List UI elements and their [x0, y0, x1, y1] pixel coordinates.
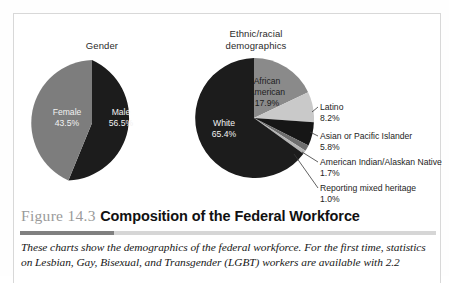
ethnic-callout-mixed-heritage-value: 1.0% — [320, 194, 416, 205]
figure-heading: Figure 14.3 Composition of the Federal W… — [21, 207, 360, 225]
ethnic-callout-mixed-heritage: Reporting mixed heritage 1.0% — [320, 183, 416, 204]
ethnic-callout-american-indian-name: American Indian/Alaskan Native — [320, 157, 442, 168]
figure-caption-text: These charts show the demographics of th… — [21, 240, 435, 271]
ethnic-label-african-american-name2: American — [249, 87, 285, 97]
gender-label-male-name: Male — [112, 107, 131, 117]
ethnic-callout-asian-pacific: Asian or Pacific Islander 5.8% — [320, 131, 412, 152]
ethnic-callout-asian-pacific-value: 5.8% — [320, 142, 412, 153]
ethnic-callout-asian-pacific-name: Asian or Pacific Islander — [320, 131, 412, 142]
ethnic-callout-mixed-heritage-name: Reporting mixed heritage — [320, 183, 416, 194]
gender-chart-title: Gender — [42, 40, 162, 52]
ethnic-label-white-name: White — [213, 118, 235, 128]
figure-title: Composition of the Federal Workforce — [100, 208, 360, 224]
gender-label-female: Female 43.5% — [41, 107, 93, 128]
ethnic-label-white-value: 65.4% — [212, 129, 236, 139]
gender-label-male: Male 56.5% — [97, 107, 145, 128]
ethnic-callout-latino-value: 8.2% — [320, 113, 343, 124]
figure-number: Figure 14.3 — [21, 207, 96, 224]
ethnic-label-african-american-value: 17.9% — [255, 98, 279, 108]
ethnic-chart-title: Ethnic/racial demographics — [196, 28, 316, 51]
ethnic-callout-latino-name: Latino — [320, 102, 343, 113]
ethnic-label-white: White 65.4% — [201, 118, 247, 139]
gender-label-female-value: 43.5% — [55, 118, 79, 128]
figure-rule-bar — [20, 231, 436, 235]
figure-rule-bar-accent — [20, 231, 114, 235]
ethnic-chart-title-line2: demographics — [226, 40, 287, 51]
ethnic-callout-american-indian-value: 1.7% — [320, 168, 442, 179]
gender-chart-title-text: Gender — [86, 40, 118, 51]
gender-label-male-value: 56.5% — [109, 118, 133, 128]
ethnic-chart-title-line1: Ethnic/racial — [229, 28, 282, 39]
ethnic-label-african-american: African American 17.9% — [242, 76, 292, 108]
charts-area: Gender Ethnic/racial demographics Female… — [14, 14, 442, 210]
figure-frame: Gender Ethnic/racial demographics Female… — [13, 13, 441, 283]
ethnic-callout-american-indian: American Indian/Alaskan Native 1.7% — [320, 157, 442, 178]
gender-label-female-name: Female — [53, 107, 82, 117]
ethnic-callout-latino: Latino 8.2% — [320, 102, 343, 123]
ethnic-label-african-american-name1: African — [254, 76, 281, 86]
